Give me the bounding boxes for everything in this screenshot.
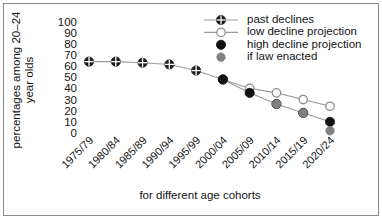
legend-marker [217, 53, 225, 61]
data-point-marker [325, 117, 334, 126]
y-axis-tick-labels: 1009080706050403020100 [58, 16, 77, 140]
legend-label: past declines [247, 13, 314, 25]
legend-label: high decline projection [247, 38, 361, 50]
series-markers [84, 57, 334, 135]
data-point-marker [272, 89, 280, 97]
y-tick-label: 0 [71, 127, 77, 139]
data-point-marker [299, 95, 307, 103]
data-point-marker [218, 75, 227, 84]
data-point-marker [245, 88, 254, 97]
data-point-marker [299, 109, 307, 117]
series-lines [89, 62, 330, 122]
series-line [89, 62, 223, 80]
legend-marker [216, 40, 225, 49]
data-point-marker [111, 57, 120, 66]
chart-legend: past declineslow decline projectionhigh … [204, 13, 361, 62]
legend-label: low decline projection [247, 25, 357, 37]
legend-marker [217, 28, 225, 36]
y-axis-title: percentages among 20–24 year olds [10, 11, 35, 148]
data-point-marker [192, 66, 201, 75]
svg-text:percentages among 20–24: percentages among 20–24 [10, 11, 22, 148]
data-point-marker [138, 58, 147, 67]
data-point-marker [326, 102, 334, 110]
data-point-marker [165, 60, 174, 69]
data-point-marker [84, 57, 93, 66]
legend-marker [216, 15, 225, 24]
chart-figure: 1009080706050403020100 1975/791980/84198… [0, 0, 382, 219]
chart-canvas: 1009080706050403020100 1975/791980/84198… [0, 0, 382, 219]
svg-text:year olds: year olds [23, 56, 35, 103]
legend-label: if law enacted [247, 50, 317, 62]
data-point-marker [272, 100, 280, 108]
data-point-marker [326, 127, 334, 135]
x-axis-title: for different age cohorts [139, 189, 260, 201]
x-axis-tick-labels: 1975/791980/841985/891990/941995/992000/… [59, 134, 337, 171]
